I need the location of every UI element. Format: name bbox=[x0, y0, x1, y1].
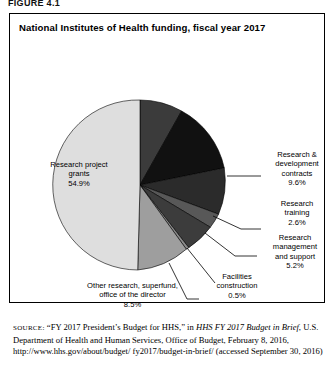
source-note: SOURCE: “FY 2017 President’s Budget for … bbox=[13, 322, 325, 358]
pie-label-research-project-grants: Research project grants 54.9% bbox=[34, 160, 124, 188]
pie-label-research-training: Research training 2.6% bbox=[264, 199, 330, 227]
source-keyword: SOURCE: bbox=[13, 324, 45, 332]
pie-label-intramural-research: Intramural research 10.9% bbox=[181, 88, 243, 116]
pie-label-facilities-construction: Facilities construction 0.5% bbox=[203, 272, 271, 300]
figure-page: FIGURE 4.1 National Institutes of Health… bbox=[0, 0, 335, 379]
source-italic-1: HHS FY 2017 bbox=[196, 322, 244, 332]
source-text-4: fy2017/budget-in-brief/ (accessed Septem… bbox=[133, 346, 323, 356]
pie-label-research-centers: Research centers 7.8% bbox=[142, 63, 198, 91]
source-text-1: “FY 2017 President’s Budget for HHS,” in bbox=[45, 322, 196, 332]
chart-title: National Institutes of Health funding, f… bbox=[19, 22, 319, 33]
pie-label-research-management: Research management and support 5.2% bbox=[258, 233, 332, 271]
pie-label-other-research: Other research, superfund, office of the… bbox=[70, 281, 195, 309]
figure-label: FIGURE 4.1 bbox=[8, 0, 60, 8]
source-italic-2: Budget in Brief bbox=[246, 322, 299, 332]
pie-label-rd-contracts: Research & development contracts 9.6% bbox=[262, 150, 332, 188]
